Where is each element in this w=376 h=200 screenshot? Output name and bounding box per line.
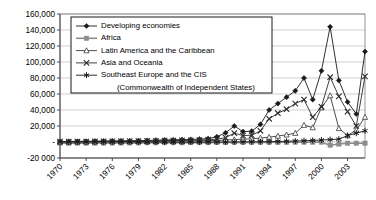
data-point-marker (363, 141, 367, 145)
data-point-marker (232, 131, 237, 136)
y-axis-tick-label: 140,000 (25, 26, 55, 35)
x-axis-tick-label: 1979 (124, 162, 144, 182)
data-point-marker (336, 94, 341, 99)
data-point-marker (327, 75, 332, 80)
legend-label: Africa (101, 33, 122, 42)
y-axis-tick-label: 60,000 (30, 90, 55, 99)
data-point-marker (84, 36, 88, 40)
legend-label-continued: (Commonwealth of Independent States) (117, 83, 255, 92)
data-point-marker (301, 97, 306, 102)
y-axis-tick-label: 20,000 (30, 122, 55, 131)
data-point-marker (310, 97, 315, 102)
chart-container: 160,000140,000120,000100,00080,00060,000… (0, 0, 376, 200)
x-axis-tick-label: 2003 (333, 162, 353, 182)
x-axis-tick-label: 1970 (45, 162, 65, 182)
data-point-marker (310, 115, 315, 120)
x-axis-tick-label: 1973 (71, 162, 91, 182)
series-2 (57, 93, 367, 144)
legend-label: Asia and Oceania (101, 58, 163, 67)
x-axis-tick-label: 1991 (228, 162, 248, 182)
x-axis-tick-label: 1997 (280, 162, 300, 182)
y-axis-tick-label: 160,000 (25, 10, 55, 19)
data-point-marker (362, 114, 367, 119)
x-axis-tick-label: 1994 (254, 162, 274, 182)
y-axis-tick-label: 80,000 (30, 74, 55, 83)
legend-label: Southeast Europe and the CIS (101, 70, 207, 79)
data-point-marker (266, 116, 271, 121)
data-point-marker (345, 141, 349, 145)
x-axis-tick-label: 1988 (202, 162, 222, 182)
x-axis-tick-label: 1985 (176, 162, 196, 182)
series-line (60, 96, 365, 142)
data-point-marker (336, 78, 341, 83)
data-point-marker (328, 24, 333, 29)
y-axis-tick-label: 100,000 (25, 58, 55, 67)
data-point-marker (328, 143, 332, 147)
data-point-marker (293, 101, 298, 106)
data-point-marker (284, 107, 289, 112)
x-axis-tick-label: 1976 (97, 162, 117, 182)
legend-label: Latin America and the Caribbean (101, 46, 215, 55)
data-point-marker (319, 68, 324, 73)
line-chart: 160,000140,000120,000100,00080,00060,000… (0, 0, 376, 200)
data-point-marker (301, 122, 306, 127)
y-axis-tick-label: - (52, 138, 55, 147)
x-axis-tick-label: 1982 (150, 162, 170, 182)
y-axis-tick-label: -20 000 (27, 154, 55, 163)
data-point-marker (275, 111, 280, 116)
y-axis-tick-label: 40,000 (30, 106, 55, 115)
data-point-marker (354, 141, 358, 145)
x-axis-tick-label: 2000 (307, 162, 327, 182)
data-point-marker (258, 128, 263, 133)
data-point-marker (362, 128, 367, 134)
data-point-marker (362, 49, 367, 54)
y-axis-tick-label: 120,000 (25, 42, 55, 51)
series-4 (57, 128, 367, 145)
data-point-marker (301, 75, 306, 80)
data-point-marker (337, 142, 341, 146)
data-point-marker (328, 93, 333, 98)
legend-label: Developing economies (101, 21, 180, 30)
